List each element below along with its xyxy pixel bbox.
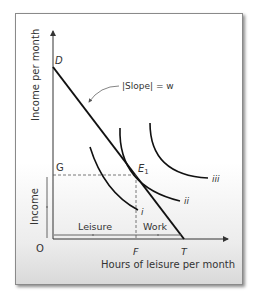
budget-line [53,67,184,239]
slope-annotation: |Slope| = w [122,81,174,91]
x-axis-label: Hours of leisure per month [101,259,235,270]
point-t-label: T [181,246,188,257]
leisure-label: Leisure [78,221,112,232]
point-g-label: G [56,162,64,173]
curve-i-label: i [141,207,144,217]
point-e1-label: E1 [138,163,149,176]
origin-label: O [36,243,44,254]
income-bracket-label: Income [29,188,40,225]
point-d-label: D [55,55,63,66]
y-axis-label: Income per month [30,29,41,121]
indifference-curve-i [90,147,138,210]
indifference-curve-iii [150,123,208,178]
point-f-label: F [133,246,139,257]
curve-ii-label: ii [184,196,190,206]
labor-leisure-diagram: Income per month Hours of leisure per mo… [0,0,256,302]
curve-iii-label: iii [212,174,220,184]
indifference-curve-ii [120,128,180,201]
slope-arrow [89,86,119,102]
work-label: Work [143,221,168,232]
